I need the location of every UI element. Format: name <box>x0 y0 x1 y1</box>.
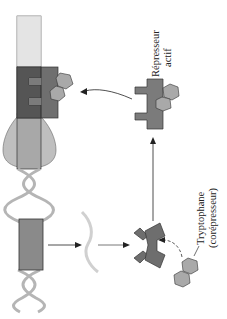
trp-repressor-diagram: Répresseur actif Tryptophane (corépresse… <box>0 0 227 319</box>
active-repressor-label-line1: Répresseur <box>150 30 161 77</box>
inactive-repressor <box>134 223 165 268</box>
tryptophan-label-leader <box>194 246 199 256</box>
dna-strand-middle <box>17 114 41 169</box>
active-repressor-label-line2: actif <box>162 48 173 67</box>
corepressor-binding-arrow <box>163 240 182 257</box>
trp-gene-box <box>19 219 43 270</box>
tryptophan-label-line1: Tryptophane <box>195 191 206 245</box>
binding-arrow <box>85 90 132 99</box>
tryptophan-label-line2: (corépresseur) <box>207 187 219 248</box>
free-tryptophan-icon <box>182 258 198 274</box>
mrna-strand <box>82 212 98 272</box>
